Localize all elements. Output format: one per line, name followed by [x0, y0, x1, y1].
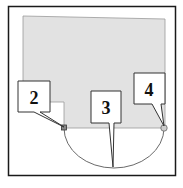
- diagram-canvas: 2 3 4: [0, 0, 183, 188]
- callout-4-label: 4: [145, 80, 154, 100]
- callout-3-label: 3: [102, 98, 111, 118]
- callout-2-label: 2: [30, 88, 39, 108]
